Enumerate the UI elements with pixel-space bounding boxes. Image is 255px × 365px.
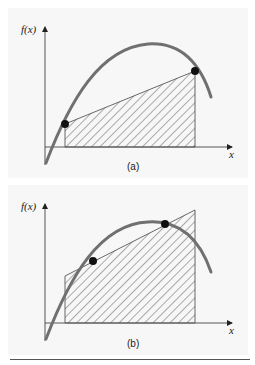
point-a-right bbox=[191, 67, 199, 75]
point-b-right bbox=[161, 220, 169, 228]
panel-b: f(x) x (b) bbox=[21, 200, 234, 349]
bottom-divider bbox=[10, 359, 250, 360]
panel-label-a: (a) bbox=[127, 161, 139, 172]
y-axis-label-b: f(x) bbox=[21, 200, 37, 213]
x-axis-label-a: x bbox=[228, 148, 234, 160]
y-axis-label-a: f(x) bbox=[21, 23, 37, 36]
panel-label-b: (b) bbox=[127, 338, 139, 349]
panel-a: f(x) x (a) bbox=[21, 23, 234, 172]
point-a-left bbox=[61, 120, 69, 128]
figure-svg: f(x) x (a) f(x) x (b) bbox=[0, 0, 255, 365]
x-axis-label-b: x bbox=[228, 324, 234, 336]
trapezoid-area-a bbox=[65, 71, 195, 147]
point-b-left bbox=[89, 257, 97, 265]
